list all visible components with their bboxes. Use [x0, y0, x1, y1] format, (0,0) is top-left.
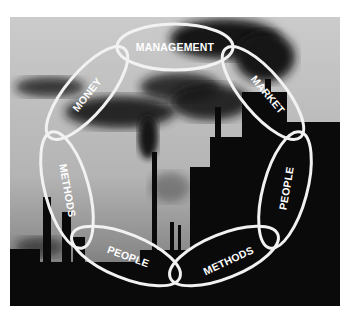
factory-diagram-figure: MANAGEMENT MARKET PEOPLE METHODS PEOPLE … — [10, 17, 340, 306]
diagram-canvas: MANAGEMENT MARKET PEOPLE METHODS PEOPLE … — [10, 17, 340, 306]
label-management: MANAGEMENT — [136, 41, 215, 53]
